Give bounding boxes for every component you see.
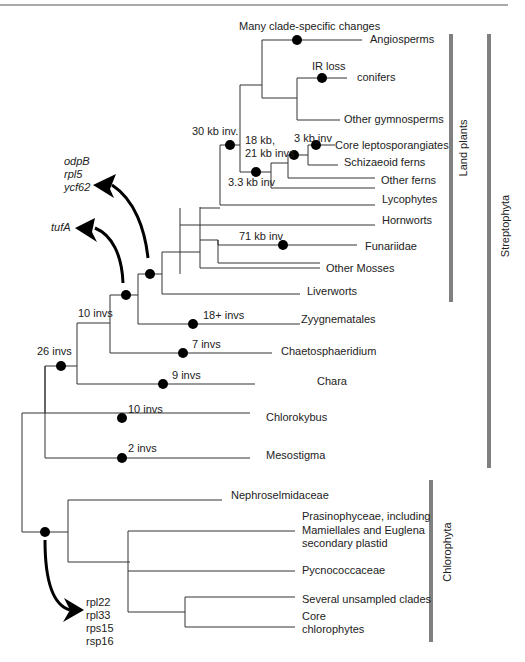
gene-rpl22: rpl22 xyxy=(86,596,114,609)
taxon-hornworts: Hornworts xyxy=(382,214,432,227)
taxon-core-chlorophytes-line1: Core xyxy=(302,610,326,623)
clade-label-streptophyta: Streptophyta xyxy=(499,195,511,257)
taxon-funariidae: Funariidae xyxy=(365,240,417,253)
taxon-core-chlorophytes-line2: chlorophytes xyxy=(302,623,364,636)
taxon-zygnematales: Zyygnematales xyxy=(301,313,376,326)
event-18kb-line1: 18 kb, xyxy=(245,134,275,147)
clade-label-land-plants: Land plants xyxy=(457,120,469,177)
gene-rps15: rps15 xyxy=(86,622,114,635)
gene-rpl5: rpl5 xyxy=(64,168,90,181)
taxon-prasinophyceae-line2: Mamiellales and Euglena xyxy=(302,524,425,537)
event-ir-loss: IR loss xyxy=(312,60,346,73)
taxon-chaetosphaeridium: Chaetosphaeridium xyxy=(281,345,376,358)
gene-ycf62: ycf62 xyxy=(64,181,90,194)
taxon-conifers: conifers xyxy=(357,71,396,84)
event-3-3kb-inv: 3.3 kb inv xyxy=(228,176,275,189)
event-18kb-line2: 21 kb invs xyxy=(245,147,295,160)
event-10-invs-a: 10 invs xyxy=(78,307,113,320)
taxon-prasinophyceae-line1: Prasinophyceae, including xyxy=(302,510,430,523)
streptophyta-bar xyxy=(487,34,491,468)
event-26-invs: 26 invs xyxy=(37,345,72,358)
gene-odpb: odpB xyxy=(64,155,90,168)
taxon-prasinophyceae-line3: secondary plastid xyxy=(302,537,388,550)
taxon-other-mosses: Other Mosses xyxy=(326,262,394,275)
gene-transfer-arrows xyxy=(45,185,148,610)
gene-rpl33: rpl33 xyxy=(86,609,114,622)
taxon-mesostigma: Mesostigma xyxy=(266,449,325,462)
taxon-chlorokybus: Chlorokybus xyxy=(266,411,327,424)
event-18plus-invs: 18+ invs xyxy=(203,309,244,322)
event-3kb-inv: 3 kb inv xyxy=(294,132,332,145)
gene-rsp16: rsp16 xyxy=(86,635,114,648)
event-9-invs: 9 invs xyxy=(172,369,201,382)
event-30kb-inv: 30 kb inv. xyxy=(192,125,238,138)
taxon-lycophytes: Lycophytes xyxy=(382,193,437,206)
gene-list-tufa-group: tufA xyxy=(51,221,71,234)
event-71kb-inv: 71 kb inv xyxy=(239,230,283,243)
taxon-pycnococcaceae: Pycnococcaceae xyxy=(302,564,385,577)
arrowheads xyxy=(63,174,116,622)
taxon-nephroselmidaceae: Nephroselmidaceae xyxy=(231,489,329,502)
gene-tufa: tufA xyxy=(51,221,71,234)
taxon-schizaeoid-ferns: Schizaeoid ferns xyxy=(344,156,425,169)
event-10-invs-b: 10 invs xyxy=(128,403,163,416)
gene-list-rpl-group: rpl22 rpl33 rps15 rsp16 xyxy=(86,596,114,648)
event-7-invs: 7 invs xyxy=(192,338,221,351)
taxon-chara: Chara xyxy=(317,375,347,388)
taxon-core-leptosporangiates: Core leptosporangiates xyxy=(335,139,449,152)
event-2-invs: 2 invs xyxy=(128,442,157,455)
chlorophyta-bar xyxy=(429,480,433,642)
taxon-other-ferns: Other ferns xyxy=(381,174,436,187)
land-plants-bar xyxy=(449,34,453,302)
taxon-other-gymnosperms: Other gymnosperms xyxy=(344,113,444,126)
taxon-unsampled-clades: Several unsampled clades xyxy=(302,593,431,606)
taxon-angiosperms: Angiosperms xyxy=(370,33,434,46)
taxon-liverworts: Liverworts xyxy=(307,285,357,298)
event-many-clade-changes: Many clade-specific changes xyxy=(239,20,380,33)
gene-list-odpb-group: odpB rpl5 ycf62 xyxy=(64,155,90,194)
clade-label-chlorophyta: Chlorophyta xyxy=(441,522,453,581)
